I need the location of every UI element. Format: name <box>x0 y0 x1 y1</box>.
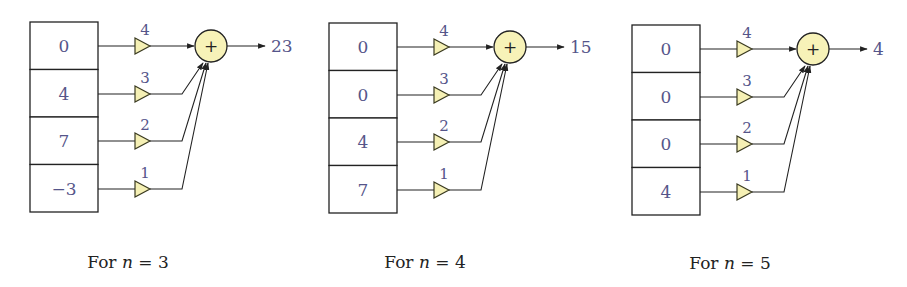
cell-value: 4 <box>59 84 70 104</box>
gain-triangle-icon <box>135 86 150 102</box>
gain-triangle-icon <box>737 136 752 152</box>
cell-value: 7 <box>358 180 369 200</box>
cell-value: 0 <box>661 134 672 154</box>
panel-n5: 0 0 0 4 4 3 2 1 + 4 For n = 5 <box>632 24 884 273</box>
register: 0 0 0 4 <box>632 25 700 215</box>
cell-value: 0 <box>358 37 369 57</box>
output-value: 4 <box>873 39 884 59</box>
gain-triangle-icon <box>135 181 150 197</box>
plus-sign: + <box>204 36 218 56</box>
weight-label: 4 <box>742 24 752 42</box>
diagram-canvas: 0 4 7 −3 4 3 2 1 + 23 For n = 3 <box>0 0 907 287</box>
output-value: 15 <box>570 37 592 57</box>
gain-triangle-icon <box>135 38 150 54</box>
weight-label: 2 <box>742 119 752 137</box>
weight-label: 1 <box>140 164 150 182</box>
cell-value: −3 <box>51 179 76 199</box>
output-value: 23 <box>271 36 293 56</box>
weight-label: 1 <box>439 165 449 183</box>
register: 0 4 7 −3 <box>30 22 98 212</box>
cell-value: 4 <box>358 132 369 152</box>
weight-label: 3 <box>742 72 752 90</box>
gain-triangle-icon <box>737 184 752 200</box>
weight-label: 2 <box>140 116 150 134</box>
cell-value: 4 <box>661 182 672 202</box>
cell-value: 0 <box>59 36 70 56</box>
register: 0 0 4 7 <box>329 23 397 213</box>
panel-caption: For n = 3 <box>87 252 168 272</box>
cell-value: 7 <box>59 131 70 151</box>
plus-sign: + <box>503 37 517 57</box>
weight-label: 4 <box>439 22 449 40</box>
weight-label: 4 <box>140 21 150 39</box>
gain-triangle-icon <box>434 182 449 198</box>
gain-triangle-icon <box>434 87 449 103</box>
plus-sign: + <box>806 39 820 59</box>
cell-value: 0 <box>661 87 672 107</box>
panel-caption: For n = 4 <box>384 252 465 272</box>
weight-label: 3 <box>439 70 449 88</box>
gain-triangle-icon <box>737 89 752 105</box>
cell-value: 0 <box>661 39 672 59</box>
panel-n4: 0 0 4 7 4 3 2 1 + 15 For n = 4 <box>329 22 592 272</box>
gain-triangle-icon <box>135 133 150 149</box>
panel-n3: 0 4 7 −3 4 3 2 1 + 23 For n = 3 <box>30 21 293 272</box>
weight-label: 3 <box>140 69 150 87</box>
gain-triangle-icon <box>434 134 449 150</box>
gain-triangle-icon <box>737 41 752 57</box>
cell-value: 0 <box>358 85 369 105</box>
panel-caption: For n = 5 <box>689 253 770 273</box>
weight-label: 2 <box>439 117 449 135</box>
gain-triangle-icon <box>434 39 449 55</box>
weight-label: 1 <box>742 167 752 185</box>
